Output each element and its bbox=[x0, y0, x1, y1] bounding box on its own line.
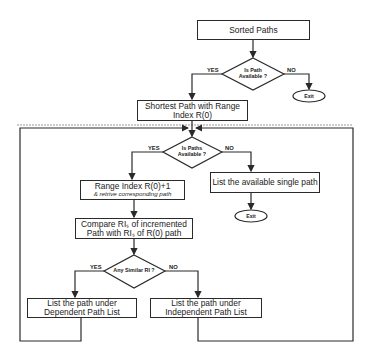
process-label: Independent Path List bbox=[165, 308, 247, 317]
no-label: NO bbox=[225, 145, 234, 151]
edge-yes-to-shortest bbox=[192, 74, 222, 99]
no-label: NO bbox=[287, 67, 296, 73]
decision-text: Any Similar RI ? bbox=[110, 268, 158, 274]
process-sorted-paths: Sorted Paths bbox=[197, 20, 310, 40]
process-sublabel: & retrive corresponding path bbox=[94, 191, 172, 198]
edge-yes-to-dependent bbox=[75, 271, 104, 297]
process-range-index: Range Index R(0)+1 & retrive correspondi… bbox=[80, 180, 185, 200]
process-label: Path with RIₛ of R(0) path bbox=[87, 229, 182, 238]
decision-label-paths-available: Is Paths Available ? bbox=[172, 146, 212, 158]
yes-label: YES bbox=[90, 264, 102, 270]
edge-no-to-single bbox=[222, 152, 251, 171]
edge-no-to-exit bbox=[284, 74, 309, 89]
decision-label-similar: Any Similar RI ? bbox=[110, 268, 158, 274]
process-independent: List the path under Independent Path Lis… bbox=[150, 298, 262, 318]
exit-label: Exit bbox=[299, 93, 319, 99]
process-label: Sorted Paths bbox=[229, 26, 277, 35]
edge-no-to-independent bbox=[165, 271, 198, 297]
process-dependent: List the path under Dependent Path List bbox=[27, 298, 137, 318]
edge-yes-to-range bbox=[132, 152, 163, 179]
decision-label-path-available: Is Path Available ? bbox=[232, 68, 274, 80]
exit-label: Exit bbox=[241, 213, 261, 219]
decision-text: Available ? bbox=[172, 152, 212, 158]
process-label: Dependent Path List bbox=[44, 308, 120, 317]
decision-text: Available ? bbox=[232, 74, 274, 80]
process-label: Index R(0) bbox=[173, 111, 212, 120]
yes-label: YES bbox=[148, 145, 160, 151]
no-label: NO bbox=[169, 264, 178, 270]
process-list-single: List the available single path bbox=[210, 172, 320, 193]
process-compare: Compare RIₛ of incremented Path with RIₛ… bbox=[75, 218, 193, 239]
process-label: List the available single path bbox=[212, 178, 317, 187]
yes-label: YES bbox=[207, 67, 219, 73]
process-shortest-path: Shortest Path with Range Index R(0) bbox=[137, 100, 248, 121]
